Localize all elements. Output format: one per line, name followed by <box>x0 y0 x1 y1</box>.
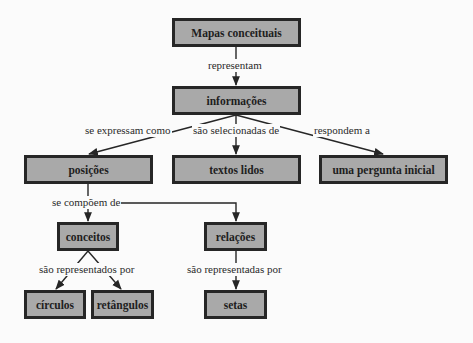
node-relacoes: relações <box>204 222 267 251</box>
node-textos-lidos: textos lidos <box>172 155 301 184</box>
link-label-representados: são representados por <box>38 263 135 276</box>
concept-map: representam se expressam como são seleci… <box>0 0 473 343</box>
node-mapas-conceituais: Mapas conceituais <box>172 18 301 47</box>
link-label-selecionadas: são selecionadas de <box>192 124 280 137</box>
link-label-representadas: são representadas por <box>186 263 283 276</box>
node-informacoes: informações <box>172 86 301 115</box>
node-setas: setas <box>204 290 267 319</box>
node-posicoes: posições <box>24 155 153 184</box>
node-circulos: círculos <box>24 290 86 319</box>
link-label-representam: representam <box>207 59 263 72</box>
link-label-se-expressam: se expressam como <box>84 124 172 137</box>
node-uma-pergunta-inicial: uma pergunta inicial <box>319 155 448 184</box>
node-retangulos: retângulos <box>91 290 154 319</box>
link-label-respondem: respondem a <box>313 124 371 137</box>
node-conceitos: conceitos <box>57 222 119 251</box>
link-label-compoem: se compõem de <box>51 196 121 209</box>
